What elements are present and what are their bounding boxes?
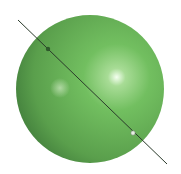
exit-point xyxy=(131,131,135,135)
secondary-highlight xyxy=(50,78,70,98)
sphere-diagram xyxy=(0,0,181,174)
entry-point xyxy=(46,47,50,51)
